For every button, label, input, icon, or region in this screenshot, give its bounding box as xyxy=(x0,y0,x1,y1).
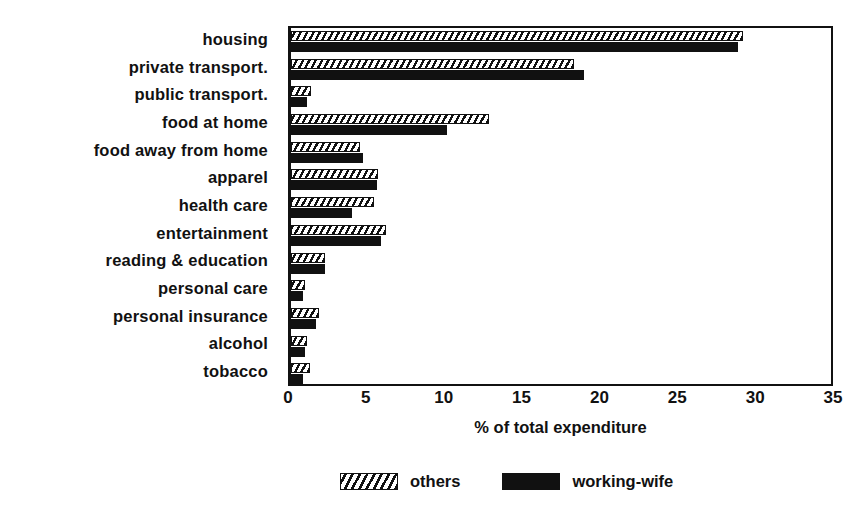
bar-group xyxy=(291,333,836,361)
bar-others xyxy=(291,280,305,290)
category-label: public transport. xyxy=(0,86,268,103)
bar-others xyxy=(291,253,325,263)
bar-others xyxy=(291,225,386,235)
category-axis-labels: housingprivate transport.public transpor… xyxy=(0,26,278,386)
category-label: alcohol xyxy=(0,335,268,352)
x-tick-label: 10 xyxy=(434,388,453,408)
bar-group xyxy=(291,360,836,388)
bar-group xyxy=(291,111,836,139)
expenditure-bar-chart: housingprivate transport.public transpor… xyxy=(0,0,862,509)
bar-others xyxy=(291,86,311,96)
bars-layer xyxy=(291,28,831,384)
legend-item-others: others xyxy=(340,472,460,491)
bar-others xyxy=(291,142,360,152)
bar-others xyxy=(291,31,743,41)
category-label: housing xyxy=(0,31,268,48)
solid-black-swatch-icon xyxy=(502,473,560,490)
x-tick-label: 30 xyxy=(746,388,765,408)
bar-working-wife xyxy=(291,97,307,107)
bar-working-wife xyxy=(291,291,303,301)
bar-others xyxy=(291,169,378,179)
category-label: reading & education xyxy=(0,252,268,269)
bar-working-wife xyxy=(291,70,584,80)
category-label: personal insurance xyxy=(0,308,268,325)
bar-group xyxy=(291,305,836,333)
category-label: private transport. xyxy=(0,59,268,76)
category-label: food away from home xyxy=(0,142,268,159)
x-axis-ticks: 05101520253035 xyxy=(288,388,833,412)
bar-others xyxy=(291,59,574,69)
bar-group xyxy=(291,28,836,56)
x-axis-title: % of total expenditure xyxy=(288,418,833,437)
bar-working-wife xyxy=(291,208,352,218)
bar-others xyxy=(291,197,374,207)
x-tick-label: 25 xyxy=(668,388,687,408)
bar-working-wife xyxy=(291,347,305,357)
bar-others xyxy=(291,308,319,318)
bar-working-wife xyxy=(291,374,303,384)
bar-group xyxy=(291,250,836,278)
plot-area xyxy=(288,26,833,386)
category-label: entertainment xyxy=(0,225,268,242)
x-tick-label: 5 xyxy=(361,388,370,408)
legend-label-working-wife: working-wife xyxy=(572,472,673,491)
bar-working-wife xyxy=(291,319,316,329)
bar-group xyxy=(291,166,836,194)
bar-working-wife xyxy=(291,153,363,163)
bar-others xyxy=(291,336,307,346)
legend-label-others: others xyxy=(410,472,460,491)
bar-group xyxy=(291,139,836,167)
category-label: health care xyxy=(0,197,268,214)
bar-group xyxy=(291,194,836,222)
x-tick-label: 20 xyxy=(590,388,609,408)
bar-others xyxy=(291,363,310,373)
bar-working-wife xyxy=(291,180,377,190)
bar-working-wife xyxy=(291,125,447,135)
category-label: tobacco xyxy=(0,363,268,380)
legend-item-working-wife: working-wife xyxy=(502,472,673,491)
category-label: food at home xyxy=(0,114,268,131)
bar-working-wife xyxy=(291,42,738,52)
bar-group xyxy=(291,222,836,250)
bar-group xyxy=(291,83,836,111)
bar-working-wife xyxy=(291,264,325,274)
x-tick-label: 15 xyxy=(512,388,531,408)
x-tick-label: 0 xyxy=(283,388,292,408)
bar-others xyxy=(291,114,489,124)
bar-group xyxy=(291,277,836,305)
x-tick-label: 35 xyxy=(824,388,843,408)
category-label: apparel xyxy=(0,169,268,186)
chart-legend: others working-wife xyxy=(340,466,760,496)
hatched-swatch-icon xyxy=(340,473,398,490)
bar-group xyxy=(291,56,836,84)
category-label: personal care xyxy=(0,280,268,297)
bar-working-wife xyxy=(291,236,381,246)
